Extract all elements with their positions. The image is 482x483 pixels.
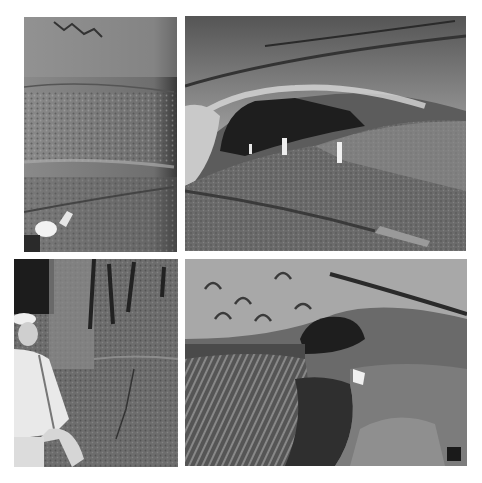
photo-cave-passage-figures: [185, 16, 466, 251]
caver-face: [18, 322, 38, 346]
photo-caver-seated: [14, 259, 178, 467]
figure-3: [337, 142, 342, 163]
caver-helmet: [35, 221, 57, 237]
figure-2: [282, 138, 287, 155]
scalloped-ceiling-image: [185, 259, 467, 466]
photo-cave-wall-sediment: [24, 17, 177, 252]
figure-1: [249, 144, 252, 154]
cave-passage-image: [185, 16, 466, 251]
caver-seated-image: [14, 259, 178, 467]
cave-wall-image: [24, 17, 177, 252]
photo-scalloped-ceiling-channel: [185, 259, 467, 466]
